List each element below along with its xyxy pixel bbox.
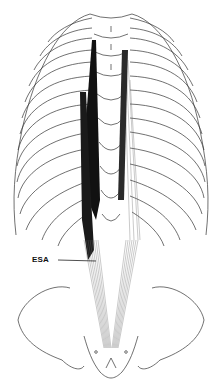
anatomy-diagram xyxy=(0,0,223,392)
esa-label: ESA xyxy=(32,255,49,264)
pelvis xyxy=(18,287,204,378)
esa-leader-line xyxy=(58,260,96,261)
ribs-right xyxy=(130,18,205,246)
erector-spinae-muscle xyxy=(80,40,140,348)
